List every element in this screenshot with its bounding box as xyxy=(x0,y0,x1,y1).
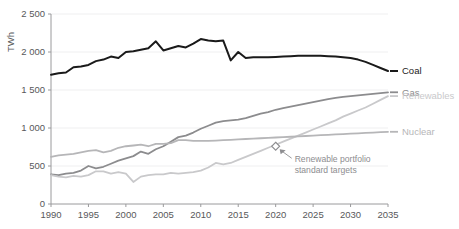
y-tick-label: 500 xyxy=(29,160,45,171)
series-label-coal: Coal xyxy=(402,65,422,76)
x-tick-label: 1995 xyxy=(78,209,99,220)
x-tick-label: 2020 xyxy=(265,209,286,220)
x-tick-label: 2025 xyxy=(303,209,324,220)
series-line-nuclear xyxy=(51,132,388,157)
annotation-text-line-2: standard targets xyxy=(295,165,357,175)
y-axis-title: TWh xyxy=(5,32,16,52)
y-tick-label: 1 000 xyxy=(21,122,45,133)
y-tick-label: 2 000 xyxy=(21,46,45,57)
x-axis: 1990199520002005201020152020202520302035 xyxy=(40,204,398,220)
y-tick-label: 0 xyxy=(40,198,45,209)
series-end-labels: CoalGasRenewablesNuclear xyxy=(390,65,455,137)
x-tick-label: 2005 xyxy=(153,209,174,220)
series-label-renewables: Renewables xyxy=(402,90,455,101)
y-tick-label: 1 500 xyxy=(21,84,45,95)
x-tick-label: 2010 xyxy=(190,209,211,220)
x-tick-label: 1990 xyxy=(40,209,61,220)
x-tick-label: 2035 xyxy=(377,209,398,220)
line-chart: 2 5002 0001 5001 0005000 199019952000200… xyxy=(0,0,459,229)
x-tick-label: 2015 xyxy=(228,209,249,220)
series-label-nuclear: Nuclear xyxy=(402,126,435,137)
y-tick-label: 2 500 xyxy=(21,8,45,19)
annotation-group: Renewable portfoliostandard targets xyxy=(272,142,371,175)
chart-container: 2 5002 0001 5001 0005000 199019952000200… xyxy=(0,0,459,229)
series-line-coal xyxy=(51,39,388,75)
annotation-text-line-1: Renewable portfolio xyxy=(295,154,371,164)
x-tick-label: 2000 xyxy=(115,209,136,220)
gridlines xyxy=(51,14,388,166)
x-tick-label: 2030 xyxy=(340,209,361,220)
y-axis: 2 5002 0001 5001 0005000 xyxy=(21,8,51,209)
